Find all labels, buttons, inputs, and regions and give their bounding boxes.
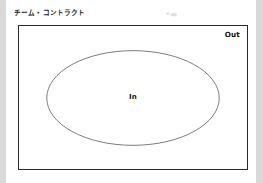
page-title: チーム・コントラクト xyxy=(14,9,86,17)
out-region-label: Out xyxy=(225,30,240,39)
document-header: チーム・コントラクト ▪ ▄▖ xyxy=(6,0,256,25)
header-faint-mark: ▪ ▄▖ xyxy=(166,10,202,17)
in-region-label: In xyxy=(19,93,247,102)
out-region-box: Out In xyxy=(18,25,248,170)
document-page: チーム・コントラクト ▪ ▄▖ Out In xyxy=(6,0,256,183)
